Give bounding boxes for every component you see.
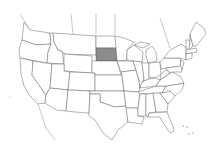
caribbean-islands bbox=[182, 125, 193, 134]
state-north-dakota bbox=[96, 36, 117, 48]
state-ohio bbox=[149, 62, 161, 78]
state-new-york bbox=[164, 44, 186, 60]
states bbox=[19, 22, 206, 140]
state-colorado bbox=[68, 72, 95, 91]
us-map bbox=[0, 0, 222, 154]
state-michigan bbox=[146, 46, 157, 63]
state-arizona bbox=[45, 88, 68, 111]
state-nebraska bbox=[92, 61, 121, 75]
state-connecticut bbox=[186, 53, 192, 60]
state-wyoming bbox=[64, 54, 92, 73]
stray-dot bbox=[10, 97, 11, 98]
state-kansas bbox=[95, 75, 124, 91]
state-maine bbox=[190, 22, 206, 46]
state-florida bbox=[148, 112, 174, 133]
state-arkansas bbox=[124, 91, 140, 108]
state-new-mexico bbox=[66, 90, 90, 113]
state-south-dakota-highlighted bbox=[96, 48, 117, 61]
